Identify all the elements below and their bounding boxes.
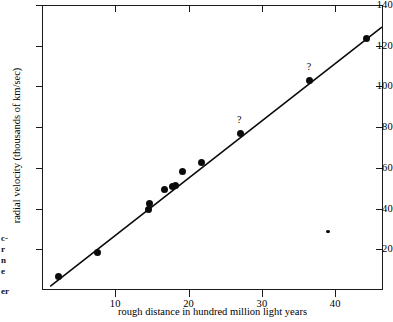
y-tick-label-140: 140 — [359, 0, 393, 10]
data-point — [145, 206, 152, 213]
uncertainty-annotation: ? — [237, 115, 241, 125]
y-tick-40 — [36, 209, 43, 210]
data-point — [55, 273, 62, 280]
y-tick-label-80: 80 — [359, 122, 393, 132]
y-tick-60 — [36, 168, 43, 169]
data-point — [198, 159, 205, 166]
margin-text-fragment: er — [1, 287, 9, 296]
uncertainty-annotation: ? — [307, 62, 311, 72]
data-point — [172, 182, 179, 189]
y-tick-20 — [36, 249, 43, 250]
margin-text-fragment: c- — [1, 234, 8, 243]
margin-text-fragment: e — [1, 267, 5, 276]
y-tick-label-60: 60 — [359, 163, 393, 173]
data-point — [237, 130, 244, 137]
margin-text-fragment: n — [1, 256, 6, 265]
x-axis-title: rough distance in hundred million light … — [42, 306, 383, 317]
y-tick-80 — [36, 127, 43, 128]
margin-text-fragment: r — [1, 245, 5, 254]
x-tick-top-40 — [335, 5, 336, 12]
x-tick-40 — [335, 290, 336, 297]
x-tick-30 — [262, 290, 263, 297]
y-tick-label-100: 100 — [359, 81, 393, 91]
data-point — [326, 230, 329, 233]
hubble-scatter-figure: 140 120 100 80 60 40 20 10 20 30 40 radi… — [0, 0, 393, 322]
plot-frame — [42, 5, 383, 290]
y-axis-title: radial velocity (thousands of km/sec) — [11, 46, 22, 246]
x-tick-10 — [115, 290, 116, 297]
x-tick-top-10 — [115, 5, 116, 12]
y-tick-140 — [36, 5, 43, 6]
data-point — [94, 249, 101, 256]
y-tick-label-120: 120 — [359, 41, 393, 51]
x-tick-top-20 — [189, 5, 190, 12]
y-tick-label-40: 40 — [359, 204, 393, 214]
x-tick-20 — [189, 290, 190, 297]
y-tick-120 — [36, 46, 43, 47]
y-tick-label-20: 20 — [359, 244, 393, 254]
y-tick-100 — [36, 86, 43, 87]
x-tick-top-30 — [262, 5, 263, 12]
